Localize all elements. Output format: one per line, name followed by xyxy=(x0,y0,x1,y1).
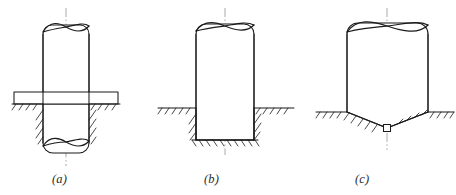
column-shaft-b xyxy=(196,24,254,140)
point-bearing-marker-c xyxy=(384,125,391,132)
column-shaft-c xyxy=(347,23,428,128)
figure-root: .ln { stroke: #1a1a1a; stroke-width: 1.0… xyxy=(0,0,456,195)
bearing-plate-a xyxy=(14,92,118,104)
column-support-diagram: .ln { stroke: #1a1a1a; stroke-width: 1.0… xyxy=(0,0,456,195)
